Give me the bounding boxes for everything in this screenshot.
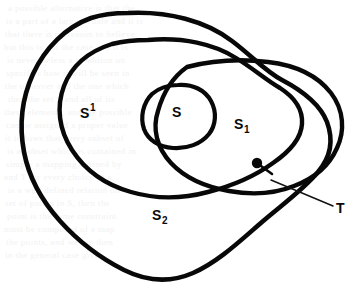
label-s-superscript-1-sup: 1 bbox=[90, 102, 96, 113]
t-point-dot bbox=[252, 158, 262, 168]
label-s-superscript-1-base: S bbox=[80, 105, 89, 121]
label-t-base: T bbox=[336, 200, 345, 216]
figure-canvas: a possible alternative is that the is a … bbox=[0, 0, 362, 294]
label-s-subscript-2-base: S bbox=[152, 207, 161, 223]
label-s-base: S bbox=[172, 104, 181, 120]
label-s: S bbox=[172, 104, 181, 120]
label-s-subscript-1-sub: 1 bbox=[244, 124, 250, 135]
label-s-subscript-2-sub: 2 bbox=[162, 215, 168, 226]
label-s-subscript-1-base: S bbox=[234, 116, 243, 132]
label-s-superscript-1: S 1 bbox=[80, 102, 96, 121]
label-s-subscript-1: S 1 bbox=[234, 116, 250, 135]
label-s-subscript-2: S 2 bbox=[152, 207, 168, 226]
set-diagram-svg: S 1 S S 1 S 2 T bbox=[0, 0, 362, 294]
label-t: T bbox=[336, 200, 345, 216]
